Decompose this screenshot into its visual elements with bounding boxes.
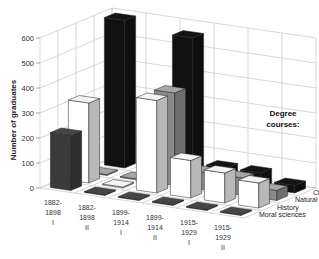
bar <box>238 176 269 209</box>
x-tick-label: 1929 <box>181 229 197 236</box>
series-label: Moral sciences <box>259 211 306 218</box>
series-label: Classics <box>313 189 319 196</box>
x-tick-label: 1898 <box>45 209 61 216</box>
x-tick-label: II <box>153 234 157 241</box>
y-axis-label: Number of graduates <box>9 79 18 160</box>
x-tick-label: I <box>120 229 122 236</box>
x-tick-label: II <box>221 244 225 251</box>
y-tick-label: 500 <box>21 59 34 68</box>
series-label: Natural sciences <box>295 196 319 203</box>
y-tick-label: 200 <box>21 134 34 143</box>
bar-chart-3d: 0100200300400500600 1882-1898I1882-1898I… <box>0 0 319 259</box>
y-axis-ticks: 0100200300400500600 <box>21 34 40 193</box>
x-tick-label: 1914 <box>113 219 129 226</box>
y-tick-label: 100 <box>21 159 34 168</box>
bar <box>170 153 201 198</box>
x-tick-label: I <box>52 219 54 226</box>
legend-title-line1: Degree <box>269 109 297 118</box>
x-tick-label: 1929 <box>215 234 231 241</box>
x-tick-label: I <box>188 239 190 246</box>
bar <box>204 166 235 204</box>
bar <box>136 93 167 193</box>
x-tick-label: 1882- <box>78 204 97 211</box>
y-tick-label: 600 <box>21 34 34 43</box>
x-tick-label: 1915- <box>214 224 233 231</box>
y-tick-label: 400 <box>21 84 34 93</box>
x-tick-label: 1898 <box>79 214 95 221</box>
bar <box>104 13 135 168</box>
x-tick-label: 1899- <box>146 214 165 221</box>
legend-title-line2: courses: <box>266 120 299 129</box>
y-tick-label: 0 <box>30 184 34 193</box>
bar <box>50 128 81 191</box>
series-label: History <box>277 204 299 212</box>
x-tick-label: 1882- <box>44 199 63 206</box>
x-tick-label: II <box>85 224 89 231</box>
y-tick-label: 300 <box>21 109 34 118</box>
x-tick-label: 1899- <box>112 209 131 216</box>
x-tick-label: 1915- <box>180 219 199 226</box>
x-tick-label: 1914 <box>147 224 163 231</box>
